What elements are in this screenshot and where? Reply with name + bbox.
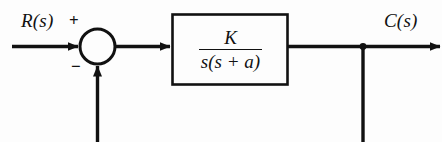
block-diagram-graphics bbox=[0, 0, 442, 142]
output-signal-label: C(s) bbox=[384, 11, 418, 30]
summing-junction-minus-sign: − bbox=[71, 58, 81, 75]
summing-junction-plus-sign: + bbox=[69, 12, 79, 29]
input-signal-label: R(s) bbox=[21, 11, 53, 30]
block-diagram-canvas: R(s) + − K s(s + a) C(s) bbox=[0, 0, 442, 142]
transfer-function-block-outline bbox=[173, 15, 288, 85]
summing-junction-circle bbox=[80, 29, 115, 64]
